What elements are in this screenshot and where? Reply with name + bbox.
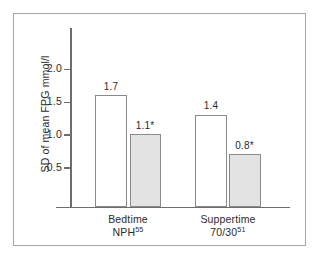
y-tick-label-2.0-wrap: 2.0	[38, 63, 62, 74]
y-tick-label-2.0: 2.0	[47, 63, 62, 74]
y-tick-mark-0.5	[64, 167, 70, 168]
x-group-label-bedtime-line2: NPH	[113, 226, 136, 238]
bar-value-bedtime-white: 1.7	[91, 82, 131, 92]
y-tick-label-0.5: 0.5	[47, 162, 62, 173]
bar-bedtime-white[interactable]	[95, 95, 127, 207]
x-axis-line	[56, 207, 290, 209]
y-tick-mark-1.5	[64, 102, 70, 103]
x-group-label-bedtime: Bedtime NPH55	[78, 213, 178, 238]
x-group-label-suppertime-line2: 70/30	[210, 226, 237, 238]
y-tick-label-1.5-wrap: 1.5	[38, 96, 62, 107]
bar-suppertime-white[interactable]	[195, 115, 227, 207]
bar-chart: SD of mean FPG mmol/l 2.0 1.5 1.0 0.5 1.…	[0, 0, 319, 263]
bar-bedtime-gray[interactable]	[130, 134, 162, 206]
bar-value-bedtime-gray: 1.1*	[125, 121, 165, 131]
bar-value-suppertime-gray: 0.8*	[225, 141, 265, 151]
x-group-label-bedtime-superscript: 55	[135, 224, 143, 233]
y-tick-mark-2.0	[64, 69, 70, 70]
y-tick-label-0.5-wrap: 0.5	[38, 162, 62, 173]
x-group-label-suppertime-superscript: 51	[237, 224, 245, 233]
y-tick-label-1.0-wrap: 1.0	[38, 129, 62, 140]
y-tick-label-1.0: 1.0	[47, 129, 62, 140]
y-axis-line	[70, 28, 72, 208]
bar-suppertime-gray[interactable]	[229, 154, 261, 207]
x-group-label-suppertime-line1: Suppertime	[200, 213, 255, 225]
x-group-label-suppertime: Suppertime 70/3051	[178, 213, 278, 238]
bar-value-suppertime-white: 1.4	[191, 101, 231, 111]
y-tick-mark-1.0	[64, 134, 70, 135]
y-tick-label-1.5: 1.5	[47, 96, 62, 107]
